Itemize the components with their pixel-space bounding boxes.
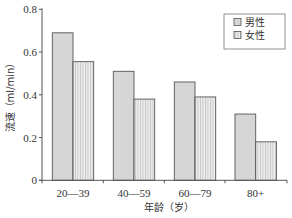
y-axis-title: 流速（ml/min） [4,58,16,133]
x-tick-label: 40—59 [118,187,152,199]
bar-chart: 20—3940—5960—7980+00.20.40.60.8 男性女性 流速（… [0,0,292,218]
legend: 男性女性 [224,14,285,49]
bar-female-3 [256,142,277,180]
bar-male-2 [174,82,195,180]
y-tick-label: 0.2 [23,132,37,144]
legend-label: 男性 [245,16,265,28]
bar-female-0 [73,62,94,181]
y-tick-label: 0.8 [23,3,37,15]
bar-male-3 [235,114,256,180]
y-tick-label: 0.4 [23,89,37,101]
x-tick-label: 60—79 [179,187,213,199]
legend-label: 女性 [245,29,265,41]
x-tick-label: 20—39 [57,187,91,199]
bar-female-2 [195,97,216,180]
bar-female-1 [134,99,155,180]
x-tick-label: 80+ [247,187,264,199]
legend-swatch-male [234,19,241,26]
legend-swatch-female [234,32,241,39]
bar-male-1 [113,71,134,180]
bars-group [52,33,276,180]
bar-male-0 [52,33,73,180]
y-tick-label: 0.6 [23,46,37,58]
y-tick-label: 0 [32,174,38,186]
x-axis-title: 年龄（岁） [144,201,194,213]
